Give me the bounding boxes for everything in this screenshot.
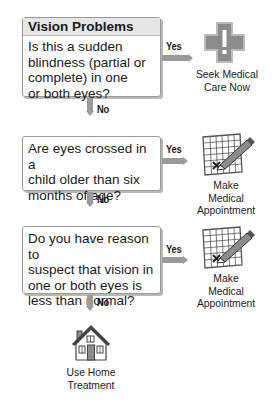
no-label-1: No <box>97 103 109 115</box>
yes-arrowhead-2 <box>183 157 188 165</box>
chart-title: Vision Problems <box>23 18 160 36</box>
no-arrowhead-2 <box>86 202 94 207</box>
yes-arrow-2 <box>162 158 183 164</box>
no-arrow-2 <box>87 192 93 202</box>
no-label-2: No <box>97 193 109 205</box>
yes-arrow-3 <box>162 257 183 263</box>
outcome-seek-care: Seek Medical Care Now <box>196 68 259 93</box>
calendar-pencil-icon <box>200 132 255 177</box>
outcome-home-treatment: Use Home Treatment <box>60 366 123 391</box>
outcome-appointment-1: Make Medical Appointment <box>195 179 258 217</box>
calendar-pencil-icon <box>200 225 255 270</box>
no-arrow-1 <box>87 98 93 111</box>
outcome-appointment-2: Make Medical Appointment <box>195 272 258 310</box>
question-box-1: Vision Problems Is this a sudden blindne… <box>22 17 161 97</box>
yes-arrow-1 <box>162 55 188 61</box>
yes-arrowhead-3 <box>183 256 188 264</box>
no-arrowhead-1 <box>86 111 94 116</box>
question-box-2: Are eyes crossed in a child older than s… <box>22 136 161 191</box>
no-arrow-3 <box>87 295 93 306</box>
question-box-3: Do you have reason to suspect that visio… <box>22 226 161 294</box>
yes-label-2: Yes <box>166 143 181 155</box>
no-label-3: No <box>97 296 109 308</box>
medical-cross-icon <box>203 21 246 64</box>
house-icon <box>71 323 111 363</box>
yes-arrowhead-1 <box>188 54 193 62</box>
yes-label-1: Yes <box>166 40 181 52</box>
question-text-1: Is this a sudden blindness (partial or c… <box>23 36 160 104</box>
no-arrowhead-3 <box>86 306 94 311</box>
yes-label-3: Yes <box>166 243 181 255</box>
